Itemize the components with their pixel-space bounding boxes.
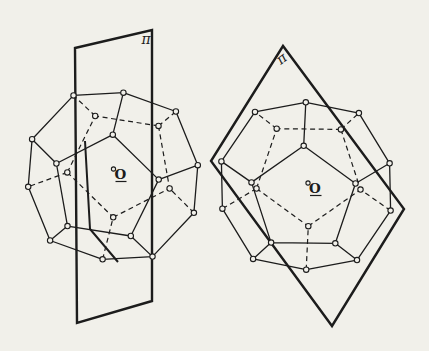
vertex-marker xyxy=(191,210,196,215)
hidden-edges xyxy=(222,112,390,270)
vertex-marker xyxy=(387,161,392,166)
vertex-marker xyxy=(47,238,52,243)
vertex-marker xyxy=(65,170,70,175)
vertex-marker xyxy=(333,241,338,246)
vertex-marker xyxy=(304,267,309,272)
vertex-marker xyxy=(65,223,70,228)
vertex-marker xyxy=(358,187,363,192)
vertex-marker xyxy=(156,177,161,182)
vertex-marker xyxy=(111,215,116,220)
textbook-figure-dodecahedra-symmetry-planes: πOπO xyxy=(0,0,429,351)
hidden-edges xyxy=(28,95,194,259)
vertex-marker xyxy=(353,181,358,186)
vertex-marker xyxy=(156,123,161,128)
vertex-marker xyxy=(338,127,343,132)
vertex-marker xyxy=(128,233,133,238)
vertex-marker xyxy=(110,132,115,137)
diagram-svg: πOπO xyxy=(0,0,429,351)
vertex-marker xyxy=(356,110,361,115)
vertex-marker xyxy=(26,184,31,189)
vertex-marker xyxy=(167,186,172,191)
vertex-marker xyxy=(388,208,393,213)
vertex-marker xyxy=(173,109,178,114)
vertex-marker xyxy=(93,113,98,118)
center-point-label: O xyxy=(309,180,321,196)
vertex-marker xyxy=(121,90,126,95)
dodecahedron-with-vertical-symmetry-plane: πO xyxy=(26,30,201,323)
vertex-marker xyxy=(100,257,105,262)
vertex-marker xyxy=(250,256,255,261)
vertex-marker xyxy=(306,224,311,229)
vertex-marker xyxy=(301,143,306,148)
center-point-label: O xyxy=(115,166,127,182)
vertex-marker xyxy=(150,254,155,259)
vertex-marker xyxy=(71,93,76,98)
vertex-marker xyxy=(195,163,200,168)
plane-label: π xyxy=(140,31,151,47)
plane-solid-intersection-trace xyxy=(85,141,118,262)
vertex-marker xyxy=(274,126,279,131)
dodecahedron-with-oblique-symmetry-plane: πO xyxy=(211,46,404,326)
vertex-marker xyxy=(219,159,224,164)
vertex-marker xyxy=(220,206,225,211)
vertex-marker xyxy=(303,100,308,105)
visible-edges xyxy=(28,93,198,260)
vertex-marker xyxy=(254,186,259,191)
vertex-marker xyxy=(268,240,273,245)
symmetry-plane-outline xyxy=(211,46,404,326)
vertex-marker xyxy=(249,180,254,185)
vertex-marker xyxy=(252,109,257,114)
vertex-marker xyxy=(354,257,359,262)
vertex-marker xyxy=(29,137,34,142)
visible-edges xyxy=(221,102,390,269)
vertex-marker xyxy=(54,161,59,166)
